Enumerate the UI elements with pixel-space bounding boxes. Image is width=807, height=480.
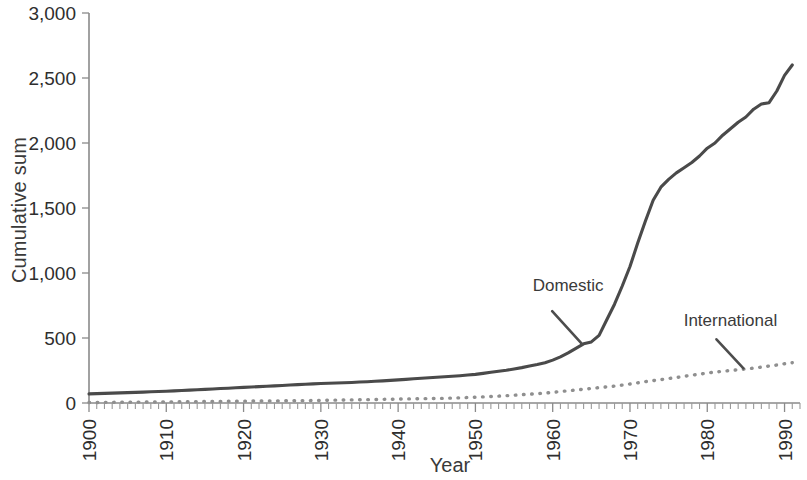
y-tick-label-2500: 2,500: [28, 68, 76, 89]
series-annotations: Domestic International: [533, 276, 778, 368]
x-tick-label-1960: 1960: [543, 419, 564, 461]
cumulative-sum-line-chart: 05001,0001,5002,0002,5003,000 1900191019…: [0, 0, 807, 480]
x-tick-label-1920: 1920: [234, 419, 255, 461]
series-line-domestic: [89, 65, 792, 394]
y-axis-title: Cumulative sum: [8, 137, 30, 283]
y-tick-label-1000: 1,000: [28, 263, 76, 284]
x-axis: 1900191019201930194019501960197019801990: [79, 403, 800, 461]
annotation-label-international: International: [684, 311, 778, 330]
y-axis-tick-labels: 05001,0001,5002,0002,5003,000: [28, 3, 76, 414]
annotation-label-domestic: Domestic: [533, 276, 604, 295]
y-axis: 05001,0001,5002,0002,5003,000: [28, 3, 89, 414]
x-tick-label-1970: 1970: [620, 419, 641, 461]
x-tick-label-1930: 1930: [311, 419, 332, 461]
y-tick-label-0: 0: [65, 393, 76, 414]
chart-container: 05001,0001,5002,0002,5003,000 1900191019…: [0, 0, 807, 480]
x-axis-title: Year: [430, 454, 471, 476]
x-tick-label-1910: 1910: [156, 419, 177, 461]
series-line-international: [89, 363, 792, 403]
x-tick-label-1980: 1980: [697, 419, 718, 461]
annotation-leader-domestic: [552, 311, 582, 344]
x-tick-label-1940: 1940: [388, 419, 409, 461]
y-tick-label-2000: 2,000: [28, 133, 76, 154]
x-axis-minor-ticks: [89, 403, 800, 412]
x-tick-label-1900: 1900: [79, 419, 100, 461]
y-tick-label-500: 500: [44, 328, 76, 349]
y-tick-label-3000: 3,000: [28, 3, 76, 24]
annotation-leader-international: [716, 339, 743, 368]
x-tick-label-1990: 1990: [775, 419, 796, 461]
data-series-group: [89, 65, 792, 402]
y-tick-label-1500: 1,500: [28, 198, 76, 219]
y-axis-ticks: [82, 13, 89, 403]
